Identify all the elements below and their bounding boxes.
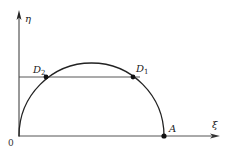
point-d1 [131, 75, 136, 80]
diagram-canvas: η ξ 0 D2 D1 A [0, 0, 231, 152]
d2-label: D2 [32, 64, 46, 77]
d1-label: D1 [135, 63, 149, 76]
xi-label: ξ [212, 119, 218, 130]
point-a [161, 133, 166, 138]
origin-label: 0 [8, 138, 14, 148]
eta-label: η [25, 13, 31, 24]
a-label: A [168, 123, 176, 134]
